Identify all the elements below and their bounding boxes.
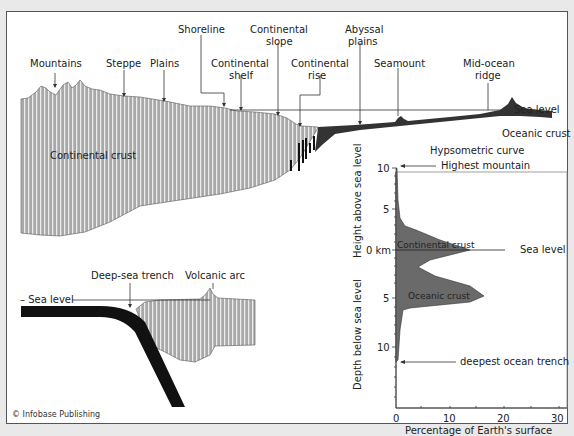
label-continental-shelf-2: shelf bbox=[229, 70, 253, 81]
label-sea-level-top: Sea level bbox=[514, 104, 560, 115]
y-tick-5-top: 5 bbox=[383, 204, 389, 215]
label-inset-sea-level: – Sea level bbox=[20, 294, 74, 305]
xlabel: Percentage of Earth's surface bbox=[405, 425, 552, 436]
label-mid-ocean-2: ridge bbox=[475, 70, 501, 81]
credit: © Infobase Publishing bbox=[12, 410, 100, 419]
label-volcanic-arc: Volcanic arc bbox=[185, 270, 245, 281]
x-tick-0: 0 bbox=[393, 413, 399, 424]
annotation-deepest-trench: deepest ocean trench bbox=[460, 356, 569, 367]
y-tick-5-bottom: 5 bbox=[383, 293, 389, 304]
label-deep-sea-trench: Deep-sea trench bbox=[91, 270, 174, 281]
hypsometric-title: Hypsometric curve bbox=[430, 145, 525, 156]
highest-mountain-arrowhead bbox=[400, 164, 405, 168]
label-shoreline: Shoreline bbox=[178, 24, 225, 35]
annotation-sea-level: Sea level bbox=[520, 244, 566, 255]
label-abyssal-2: plains bbox=[348, 36, 378, 47]
diagram-canvas: Mountains Steppe Plains Shoreline Contin… bbox=[0, 0, 574, 436]
y-ticks bbox=[392, 168, 396, 397]
ylabel-depth: Depth below sea level bbox=[352, 279, 363, 390]
y-tick-10-bottom: 10 bbox=[377, 342, 390, 353]
label-continental-slope-2: slope bbox=[266, 36, 293, 47]
hypsometric-area bbox=[396, 168, 484, 362]
x-tick-20: 20 bbox=[497, 413, 510, 424]
label-plains: Plains bbox=[150, 58, 179, 69]
x-tick-30: 30 bbox=[551, 413, 564, 424]
label-continental-slope-1: Continental bbox=[250, 24, 308, 35]
hypsometric-chart: Hypsometric curve 10 5 0 km 5 10 0 10 20… bbox=[352, 143, 569, 436]
label-oceanic-crust: Oceanic crust bbox=[502, 128, 571, 139]
annotation-oceanic-crust: Oceanic crust bbox=[408, 291, 470, 301]
annotation-continental-crust: Continental crust bbox=[397, 240, 475, 250]
trench-arrowhead bbox=[128, 304, 132, 308]
deepest-trench-arrowhead bbox=[400, 360, 405, 364]
label-mountains: Mountains bbox=[30, 58, 82, 69]
label-continental-rise-1: Continental bbox=[291, 58, 349, 69]
label-continental-rise-2: rise bbox=[308, 70, 326, 81]
label-continental-shelf-1: Continental bbox=[211, 58, 269, 69]
x-tick-10: 10 bbox=[443, 413, 456, 424]
label-continental-crust: Continental crust bbox=[50, 150, 136, 161]
label-mid-ocean-1: Mid-ocean bbox=[463, 58, 515, 69]
y-tick-10-top: 10 bbox=[377, 163, 390, 174]
ylabel-height: Height above sea level bbox=[352, 143, 363, 258]
label-abyssal-1: Abyssal bbox=[345, 24, 383, 35]
annotation-highest-mountain: Highest mountain bbox=[441, 160, 530, 171]
label-seamount: Seamount bbox=[374, 58, 425, 69]
label-steppe: Steppe bbox=[106, 58, 141, 69]
y-tick-0: 0 km bbox=[366, 245, 391, 256]
